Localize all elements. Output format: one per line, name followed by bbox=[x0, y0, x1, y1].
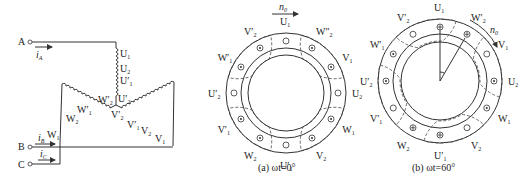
slot-label-11: W′1 bbox=[218, 52, 233, 64]
field-diagram-a: n0 (a) ωt=0° U1W″2V1U2W1V2U′1W2V′1U′2W′1… bbox=[208, 1, 362, 174]
slot-conductor-2 bbox=[484, 51, 490, 57]
slot-label-8: W2 bbox=[397, 140, 409, 152]
terminal-c bbox=[28, 162, 32, 166]
coil-v bbox=[116, 81, 174, 146]
slot-conductor-5 bbox=[328, 116, 334, 122]
slot-conductor-4 bbox=[335, 90, 341, 96]
terminal-b bbox=[28, 145, 32, 149]
current-a-label: iA bbox=[36, 49, 43, 61]
terminal-c-label: C bbox=[18, 159, 25, 170]
slot-conductor-9 bbox=[238, 116, 244, 122]
slot-conductor-9 bbox=[383, 78, 389, 84]
slot-label-12: V′2 bbox=[397, 12, 409, 24]
slot-conductor-4 bbox=[484, 105, 490, 111]
slot-conductor-3 bbox=[491, 78, 497, 84]
terminal-a-label: A bbox=[18, 36, 26, 47]
slot-conductor-10 bbox=[231, 90, 237, 96]
slot-label-3: V1 bbox=[498, 39, 508, 51]
stator-inner-ring bbox=[241, 48, 331, 138]
label-u1-prime: U′1 bbox=[120, 75, 132, 87]
slot-label-1: U1 bbox=[280, 16, 290, 28]
label-w1: W1 bbox=[47, 129, 59, 141]
label-w1-prime: W′1 bbox=[77, 104, 92, 116]
slot-conductor-11 bbox=[238, 64, 244, 70]
star-connection-schematic: A iA U1 U2 U′1 U′2 W′2 W′1 W2 W1 V′2 V′1… bbox=[18, 36, 174, 170]
label-v2: V2 bbox=[141, 125, 151, 137]
slot-conductor-1 bbox=[464, 31, 470, 37]
slot-conductor-6 bbox=[309, 135, 315, 141]
stator-outer-ring bbox=[226, 33, 346, 153]
flux-line-4 bbox=[396, 19, 456, 48]
flux-line-3 bbox=[378, 65, 407, 125]
label-w2-prime: W′2 bbox=[98, 94, 113, 106]
slot-label-11: W′1 bbox=[370, 39, 385, 51]
speed-label-a: n0 bbox=[279, 1, 287, 13]
flux-line-3 bbox=[228, 107, 272, 151]
slot-label-10: U′2 bbox=[360, 76, 372, 88]
slot-conductor-6 bbox=[437, 132, 443, 138]
speed-label-b: n0 bbox=[490, 24, 498, 36]
terminal-b-label: B bbox=[18, 141, 25, 152]
slot-conductor-11 bbox=[410, 31, 416, 37]
label-v2-prime: V′2 bbox=[111, 109, 123, 121]
slot-conductor-2 bbox=[309, 45, 315, 51]
slot-conductor-10 bbox=[390, 51, 396, 57]
diagram-canvas: A iA U1 U2 U′1 U′2 W′2 W′1 W2 W1 V′2 V′1… bbox=[0, 0, 526, 180]
slot-label-6: V2 bbox=[316, 150, 326, 162]
slot-label-2: W″2 bbox=[316, 26, 333, 38]
flux-line-2 bbox=[300, 107, 344, 151]
slot-label-5: W1 bbox=[498, 113, 510, 125]
slot-label-9: V′1 bbox=[370, 113, 382, 125]
label-u1: U1 bbox=[120, 48, 130, 60]
current-b-label: iB bbox=[38, 132, 45, 144]
flux-line-2 bbox=[424, 114, 484, 143]
slot-conductor-3 bbox=[328, 64, 334, 70]
label-v1-prime: V′1 bbox=[127, 119, 139, 131]
label-v1: V1 bbox=[155, 133, 165, 145]
slot-label-9: V′1 bbox=[218, 124, 230, 136]
slot-conductor-8 bbox=[390, 105, 396, 111]
field-diagram-b: n0 (b) ωt=60° U1W′2V1U2W1V2U′1W2V′1U′2W′… bbox=[360, 2, 518, 174]
slot-conductor-7 bbox=[410, 125, 416, 131]
flux-line-1 bbox=[300, 35, 344, 79]
label-u2: U2 bbox=[120, 63, 130, 75]
slot-conductor-5 bbox=[464, 125, 470, 131]
current-c-label: iC bbox=[40, 148, 48, 160]
slot-label-3: V1 bbox=[342, 52, 352, 64]
slot-label-4: U2 bbox=[352, 88, 362, 100]
slot-conductor-12 bbox=[437, 24, 443, 30]
slot-label-2: W′2 bbox=[471, 12, 486, 24]
slot-label-12: V′2 bbox=[244, 26, 256, 38]
slot-label-4: U2 bbox=[508, 76, 518, 88]
slot-label-10: U′2 bbox=[208, 88, 220, 100]
slot-conductor-12 bbox=[257, 45, 263, 51]
slot-conductor-8 bbox=[257, 135, 263, 141]
terminal-a bbox=[28, 40, 32, 44]
slot-label-7: U′1 bbox=[434, 150, 446, 162]
rotor-ring bbox=[248, 55, 324, 131]
slot-label-8: W2 bbox=[244, 150, 256, 162]
slot-conductor-1 bbox=[283, 38, 289, 44]
slot-label-5: W1 bbox=[342, 124, 354, 136]
flux-line-4 bbox=[228, 35, 272, 79]
slot-conductor-7 bbox=[283, 142, 289, 148]
angle-arc bbox=[440, 72, 445, 73]
caption-b: (b) ωt=60° bbox=[412, 162, 455, 174]
slot-label-1: U1 bbox=[434, 2, 444, 14]
slot-label-6: V2 bbox=[471, 140, 481, 152]
